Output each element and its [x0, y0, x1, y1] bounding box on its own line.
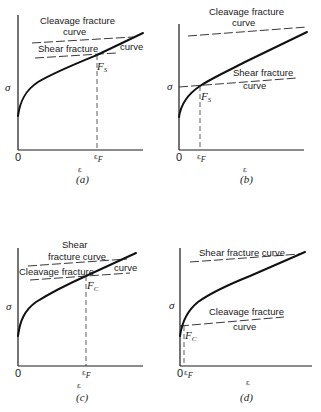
upper-line-label: Shear — [62, 239, 87, 250]
panel-b: Cleavage fracture curve Shear fracture c… — [167, 6, 307, 186]
panel-caption: (c) — [76, 391, 89, 404]
lower-line-label-2: curve — [114, 262, 137, 273]
stress-axis-label: σ — [5, 81, 11, 93]
strain-axis-label: ε — [77, 382, 81, 390]
fracture-point-label: FS — [96, 60, 108, 74]
upper-line-label: Cleavage fracture — [209, 6, 284, 17]
lower-line-label: Shear fracture — [233, 67, 293, 78]
upper-line-label-2: curve — [63, 26, 86, 37]
fracture-strain-label: εF — [94, 153, 103, 164]
panel-a: Cleavage fracture curve Shear fracture c… — [5, 15, 143, 186]
panel-caption: (a) — [76, 173, 89, 186]
fracture-point-label: FC — [184, 329, 197, 343]
panel-c: Shear fracture curve Cleavage fracture c… — [6, 239, 143, 404]
stress-axis-label: σ — [167, 80, 173, 92]
fracture-diagram: Cleavage fracture curve Shear fracture c… — [0, 0, 321, 412]
lower-line-label: Cleavage fracture — [19, 266, 94, 277]
panel-caption: (d) — [240, 391, 253, 404]
shear-fracture-line — [179, 78, 297, 87]
fracture-strain-label: εF — [82, 369, 91, 380]
fracture-point-label: FS — [200, 90, 212, 104]
stress-axis-label: σ — [6, 300, 12, 312]
lower-line-label: Cleavage fracture — [209, 306, 284, 317]
strain-axis-label: ε — [246, 379, 250, 387]
lower-line-label-2: curve — [243, 80, 266, 91]
lower-line-label-2: curve — [120, 41, 143, 52]
fracture-strain-label: εF — [184, 369, 193, 380]
origin-label: 0 — [176, 151, 182, 163]
lower-line-label: Shear fracture — [38, 43, 98, 54]
panel-caption: (b) — [240, 173, 253, 186]
origin-label: 0 — [177, 367, 183, 379]
upper-line-label-2: fracture curve — [48, 251, 106, 262]
panel-d: Shear fracture curve Cleavage fracture c… — [169, 247, 312, 404]
fracture-point-label: FC — [86, 279, 99, 293]
upper-line-label: Cleavage fracture — [40, 15, 115, 26]
stress-axis-label: σ — [169, 299, 175, 311]
cleavage-fracture-line — [180, 317, 284, 326]
cleavage-fracture-line — [188, 27, 307, 36]
lower-line-label-2: curve — [233, 321, 256, 332]
origin-label: 0 — [15, 367, 21, 379]
fracture-strain-label: εF — [197, 153, 206, 164]
upper-line-label: Shear fracture curve — [199, 247, 285, 258]
upper-line-label-2: curve — [232, 17, 255, 28]
origin-label: 0 — [15, 151, 21, 163]
